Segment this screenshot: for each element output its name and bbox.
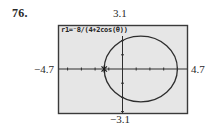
equation-readout: r1=⁻8/(4+2cos(θ)): [61, 26, 128, 34]
calculator-screen: [0, 0, 212, 128]
